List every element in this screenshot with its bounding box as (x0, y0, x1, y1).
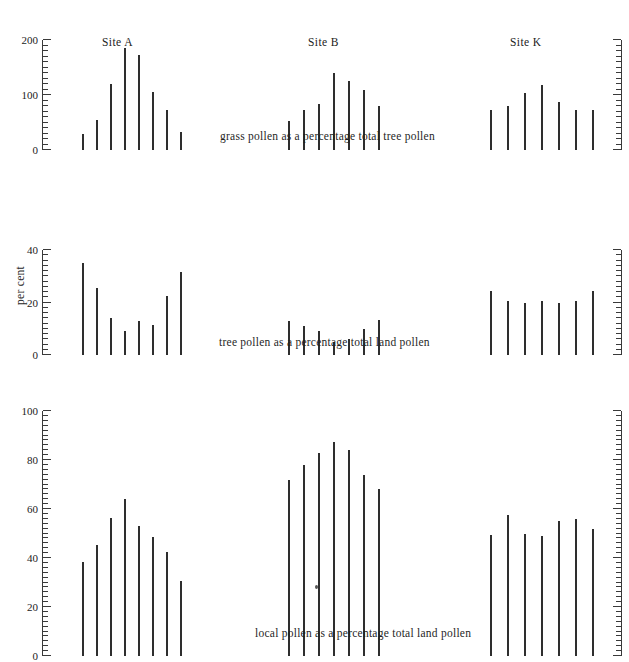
axis-tick-minor (616, 133, 621, 134)
bar (490, 535, 492, 656)
axis-tick-minor (616, 430, 621, 431)
bar (541, 536, 543, 656)
axis-tick-minor (616, 435, 621, 436)
axis-tick-minor (616, 596, 621, 597)
axis-tick-minor (616, 591, 621, 592)
axis-tick-minor (616, 323, 621, 324)
caption-grass-pollen: grass pollen as a percentage total tree … (220, 130, 435, 142)
axis-tick-minor (616, 105, 621, 106)
axis-tick-minor (616, 572, 621, 573)
axis-tick-minor (616, 127, 621, 128)
axis-tick-minor (616, 286, 621, 287)
axis-tick-minor (616, 533, 621, 534)
bar (541, 301, 543, 355)
axis-tick-minor (616, 425, 621, 426)
axis-tick-minor (616, 349, 621, 350)
bar (490, 110, 492, 150)
axis-tick-minor (616, 254, 621, 255)
chart-row-local-pollen: 020406080100 (0, 365, 629, 656)
bar (524, 534, 526, 657)
bar-series (490, 411, 615, 656)
bar-series (490, 250, 615, 355)
axis-tick-minor (616, 503, 621, 504)
axis-tick-minor (616, 344, 621, 345)
axis-tick-minor (616, 100, 621, 101)
bar (541, 85, 543, 150)
axis-tick-minor (616, 513, 621, 514)
axis-tick-minor (616, 547, 621, 548)
bar (575, 301, 577, 355)
caption-tree-pollen: tree pollen as a percentage total land p… (219, 336, 430, 348)
axis-tick-minor (616, 138, 621, 139)
bar (558, 303, 560, 356)
bar (592, 529, 594, 656)
axis-tick-minor (616, 626, 621, 627)
axis-tick-minor (616, 291, 621, 292)
axis-tick-minor (616, 449, 621, 450)
axis-spine (621, 40, 622, 150)
axis-tick-minor (616, 582, 621, 583)
axis-tick-minor (616, 586, 621, 587)
bar (558, 521, 560, 656)
axis-tick-minor (616, 444, 621, 445)
axis-tick-minor (616, 537, 621, 538)
bar (575, 519, 577, 656)
axis-tick-minor (616, 415, 621, 416)
axis-tick-minor (616, 498, 621, 499)
axis-tick-minor (616, 265, 621, 266)
axis-tick-minor (616, 640, 621, 641)
axis-tick-minor (616, 562, 621, 563)
axis-tick-minor (616, 260, 621, 261)
axis-tick-minor (616, 635, 621, 636)
bar (524, 303, 526, 356)
axis-tick-minor (616, 479, 621, 480)
axis-tick-minor (616, 577, 621, 578)
axis-tick-minor (616, 45, 621, 46)
axis-tick-minor (616, 89, 621, 90)
axis-tick-minor (616, 493, 621, 494)
axis-tick-minor (616, 333, 621, 334)
axis-tick-minor (616, 67, 621, 68)
bar (592, 110, 594, 150)
bar (524, 93, 526, 150)
axis-tick-minor (616, 338, 621, 339)
axis-tick-minor (616, 270, 621, 271)
axis-tick-minor (616, 621, 621, 622)
axis-tick-minor (616, 78, 621, 79)
axis-tick-minor (616, 307, 621, 308)
axis-tick-minor (616, 631, 621, 632)
axis-tick-minor (616, 523, 621, 524)
panel-site-k-row3 (0, 411, 629, 656)
axis-tick-minor (616, 542, 621, 543)
axis-tick-minor (616, 328, 621, 329)
axis-tick-minor (616, 601, 621, 602)
axis-spine (621, 411, 622, 656)
axis-tick-minor (616, 611, 621, 612)
bar (507, 515, 509, 656)
axis-tick-minor (616, 469, 621, 470)
chart-row-grass-pollen: Site A0100200Site BSite K (0, 0, 629, 150)
axis-tick-minor (616, 61, 621, 62)
axis-tick-minor (616, 116, 621, 117)
axis-tick-minor (616, 420, 621, 421)
axis-tick-minor (616, 518, 621, 519)
axis-tick-minor (616, 122, 621, 123)
caption-local-pollen: local pollen as a percentage total land … (255, 627, 471, 639)
axis-tick-minor (616, 439, 621, 440)
axis-tick-minor (616, 616, 621, 617)
chart-row-tree-pollen: 02040 (0, 205, 629, 355)
bar-series (490, 40, 615, 150)
axis-tick-minor (616, 645, 621, 646)
axis-tick-minor (616, 454, 621, 455)
axis-tick-minor (616, 484, 621, 485)
axis-tick-minor (616, 56, 621, 57)
axis-tick-minor (616, 567, 621, 568)
bar (490, 291, 492, 355)
axis-tick-minor (616, 464, 621, 465)
axis-tick-minor (616, 111, 621, 112)
bar (575, 110, 577, 150)
axis-tick-minor (616, 144, 621, 145)
axis-tick-minor (616, 312, 621, 313)
axis-tick-minor (616, 474, 621, 475)
